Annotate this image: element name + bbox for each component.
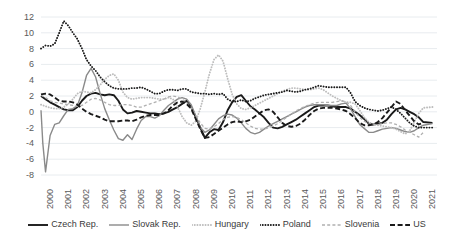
x-tick-label: 2003	[100, 189, 110, 209]
x-tick-label: 2004	[118, 189, 128, 209]
legend-item-slovak-rep[interactable]: Slovak Rep.	[109, 219, 181, 229]
x-tick-label: 2012	[263, 189, 273, 209]
legend-swatch-icon	[192, 220, 212, 229]
legend-label: Poland	[283, 219, 311, 229]
legend-item-us[interactable]: US	[390, 219, 426, 229]
x-tick-label: 2009	[209, 189, 219, 209]
x-tick-label: 2021	[427, 189, 437, 209]
x-tick-label: 2006	[154, 189, 164, 209]
y-tick-label: 10	[12, 28, 34, 38]
legend-swatch-icon	[28, 220, 48, 229]
x-tick-label: 2002	[81, 189, 91, 209]
legend-item-slovenia[interactable]: Slovenia	[322, 219, 380, 229]
x-tick-label: 2008	[191, 189, 201, 209]
legend-label: US	[413, 219, 426, 229]
legend-label: Hungary	[215, 219, 249, 229]
x-tick-label: 2019	[391, 189, 401, 209]
legend-item-czech-rep[interactable]: Czech Rep.	[28, 219, 98, 229]
legend-swatch-icon	[390, 220, 410, 229]
x-tick-label: 2005	[136, 189, 146, 209]
y-tick-label: -6	[12, 154, 34, 164]
x-tick-label: 2010	[227, 189, 237, 209]
legend-swatch-icon	[322, 220, 342, 229]
y-tick-label: 0	[12, 107, 34, 117]
y-tick-label: -8	[12, 170, 34, 180]
legend-label: Czech Rep.	[51, 219, 98, 229]
y-tick-label: 6	[12, 59, 34, 69]
x-tick-label: 2018	[373, 189, 383, 209]
x-tick-label: 2013	[282, 189, 292, 209]
y-tick-label: -2	[12, 123, 34, 133]
y-tick-label: 12	[12, 12, 34, 22]
legend-label: Slovak Rep.	[132, 219, 181, 229]
y-tick-label: 2	[12, 91, 34, 101]
x-tick-label: 2015	[318, 189, 328, 209]
chart-legend: Czech Rep.Slovak Rep.HungaryPolandSloven…	[0, 219, 454, 229]
line-chart: 121086420-2-4-6-8 2000200120022003200420…	[0, 0, 454, 240]
y-tick-label: 8	[12, 44, 34, 54]
x-tick-label: 2014	[300, 189, 310, 209]
x-tick-label: 2020	[409, 189, 419, 209]
series-line-slovak-rep	[41, 68, 432, 171]
legend-label: Slovenia	[345, 219, 380, 229]
y-tick-label: -4	[12, 138, 34, 148]
y-tick-label: 4	[12, 75, 34, 85]
x-tick-label: 2000	[45, 189, 55, 209]
legend-swatch-icon	[109, 220, 129, 229]
x-tick-label: 2011	[245, 190, 255, 209]
x-tick-label: 2016	[336, 189, 346, 209]
legend-item-poland[interactable]: Poland	[260, 219, 311, 229]
x-tick-label: 2007	[172, 189, 182, 209]
x-tick-label: 2001	[63, 189, 73, 209]
legend-item-hungary[interactable]: Hungary	[192, 219, 249, 229]
legend-swatch-icon	[260, 220, 280, 229]
x-tick-label: 2017	[355, 189, 365, 209]
